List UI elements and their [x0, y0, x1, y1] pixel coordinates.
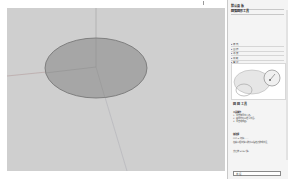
section-line: 在输入框中键入数值以指定边数或半径， [233, 141, 283, 144]
tool-title: 圆 圆 工具 [233, 103, 247, 106]
section-line: 3. 单击完成圆。 [233, 120, 283, 123]
panel-title[interactable]: 默认面板 [231, 5, 244, 8]
panel-subtitle[interactable]: 圆弧圆形工具 [231, 10, 249, 13]
tray-item[interactable]: ▸ 图层 [231, 48, 284, 52]
panel-scrollbar[interactable] [286, 10, 288, 160]
status-bar [0, 171, 228, 179]
circle-tool-illustration-icon [232, 64, 285, 99]
section-heading: 修改键 [233, 133, 283, 136]
scene-canvas[interactable] [7, 8, 225, 171]
section-line: Ctrl = 切换…… [233, 137, 283, 140]
cursor-marker [203, 1, 204, 5]
section-line: 然后按 Enter 键。 [233, 150, 283, 153]
divider [231, 14, 284, 15]
tray-item[interactable]: ▸ 阴影 [231, 57, 284, 61]
tool-illustration [231, 63, 286, 100]
tray-item[interactable]: ▸ 样式 [231, 43, 284, 47]
instructor-panel: 默认面板 圆弧圆形工具 ▸ 样式 ▸ 图层 ▸ 场景 ▸ 阴影 ▸ 雾化 ▸ 柔… [227, 0, 288, 179]
measurements-field[interactable]: 半径 [233, 171, 281, 176]
tray-item[interactable]: ▸ 场景 [231, 52, 284, 56]
modeling-viewport[interactable] [7, 8, 225, 171]
